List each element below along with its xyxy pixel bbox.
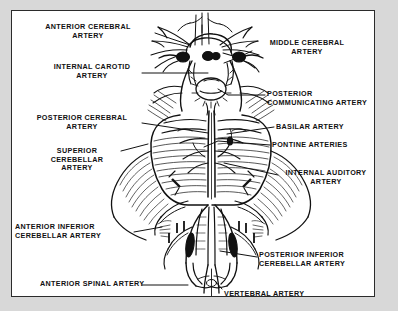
label-pontine-arteries: PONTINE ARTERIES: [272, 141, 372, 150]
label-anterior-inferior-cerebellar-artery: ANTERIOR INFERIOR CEREBELLAR ARTERY: [15, 223, 140, 240]
label-internal-carotid-artery: INTERNAL CAROTID ARTERY: [22, 63, 162, 80]
label-internal-auditory-artery: INTERNAL AUDITORY ARTERY: [278, 169, 374, 186]
label-anterior-cerebral-artery: ANTERIOR CEREBRAL ARTERY: [18, 23, 158, 40]
label-posterior-inferior-cerebellar-artery: POSTERIOR INFERIOR CEREBELLAR ARTERY: [259, 251, 374, 268]
label-posterior-communicating-artery: POSTERIOR COMMUNICATING ARTERY: [267, 90, 375, 107]
label-basilar-artery: BASILAR ARTERY: [276, 123, 375, 132]
label-superior-cerebellar-artery: SUPERIOR CEREBELLAR ARTERY: [32, 147, 122, 173]
label-anterior-spinal-artery: ANTERIOR SPINAL ARTERY: [40, 280, 160, 289]
label-layer: ANTERIOR CEREBRAL ARTERY INTERNAL CAROTI…: [12, 11, 374, 296]
label-posterior-cerebral-artery: POSTERIOR CEREBRAL ARTERY: [12, 114, 152, 131]
label-vertebral-artery: VERTEBRAL ARTERY: [224, 290, 344, 297]
anatomical-figure-frame: ANTERIOR CEREBRAL ARTERY INTERNAL CAROTI…: [11, 10, 375, 297]
label-middle-cerebral-artery: MIDDLE CEREBRAL ARTERY: [252, 39, 362, 56]
